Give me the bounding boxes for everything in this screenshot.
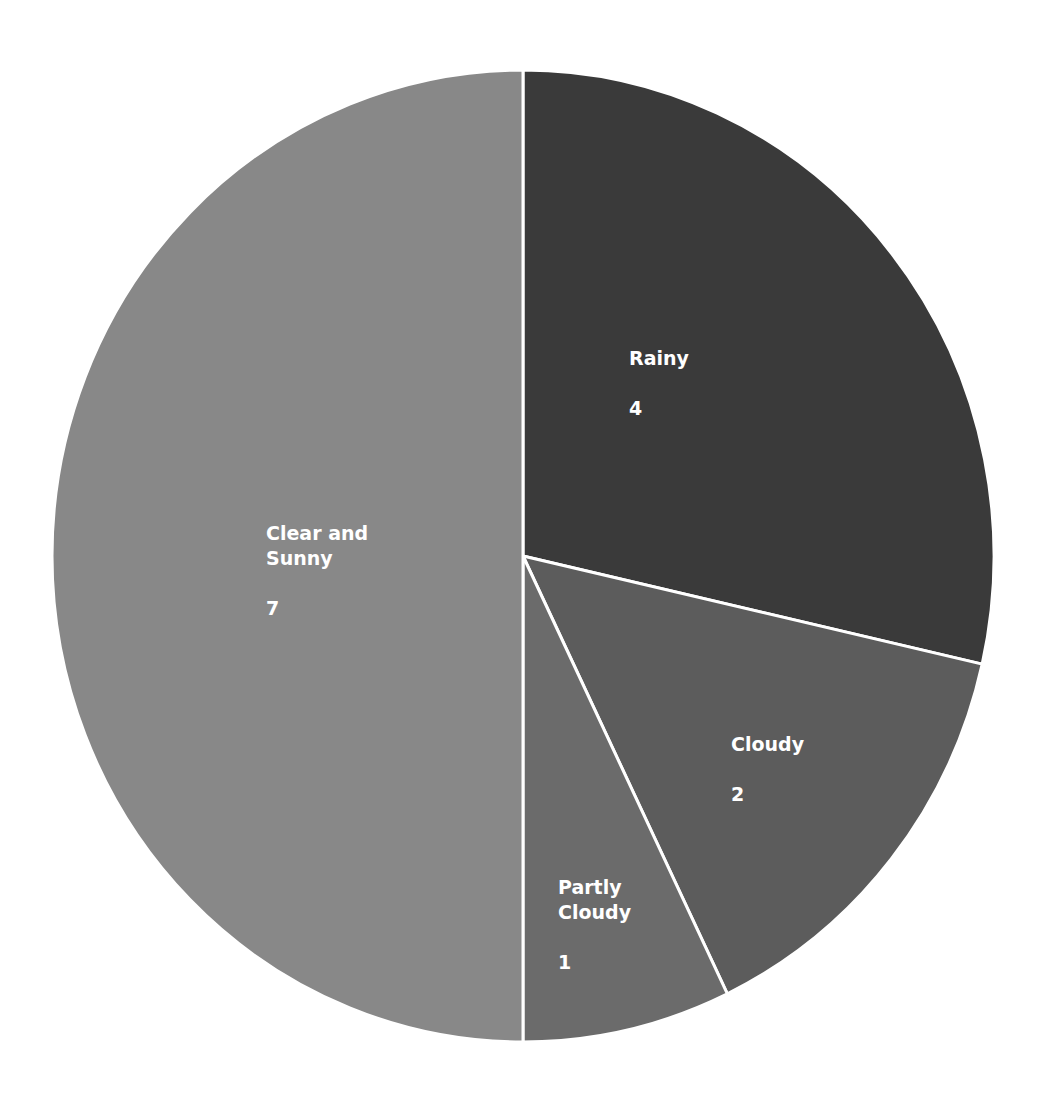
slice-label-name: Clear and Sunny	[266, 522, 368, 569]
pie-slices	[52, 70, 994, 1042]
slice-label-value: 2	[731, 783, 744, 805]
slice-label-value: 7	[266, 597, 279, 619]
slice-label-cloudy: Cloudy 2	[731, 707, 804, 807]
pie-chart	[0, 0, 1050, 1108]
slice-label-rainy: Rainy 4	[629, 321, 689, 421]
slice-label-value: 1	[558, 951, 571, 973]
slice-label-name: Cloudy	[731, 733, 804, 755]
slice-label-partly-cloudy: Partly Cloudy 1	[558, 850, 631, 975]
slice-label-value: 4	[629, 397, 642, 419]
slice-label-name: Rainy	[629, 347, 689, 369]
slice-label-clear-and-sunny: Clear and Sunny 7	[266, 496, 368, 621]
slice-label-name: Partly Cloudy	[558, 876, 631, 923]
